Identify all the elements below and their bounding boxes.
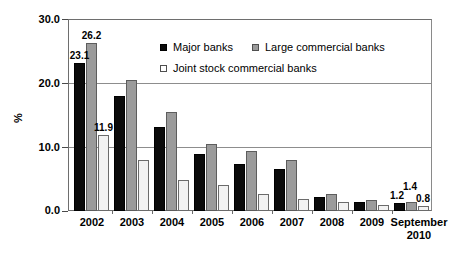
bar-group-2002: 23.1 26.2 11.9: [74, 19, 112, 211]
x-tick-label-2005: 2005: [192, 216, 232, 229]
chart-screenshot: 30.0 20.0 10.0 0.0 % 23.1 26.2 11.9: [0, 0, 460, 280]
bar-label-september-2010-large-commercial-banks: 1.4: [398, 181, 422, 192]
bar-2009-major-banks[interactable]: [354, 202, 365, 211]
x-tick-label-2006: 2006: [232, 216, 272, 229]
bar-2003-large-commercial-banks[interactable]: [126, 80, 137, 211]
bar-september-2010-major-banks[interactable]: [394, 203, 405, 211]
bar-label-september-2010-joint-stock-commercial-banks: 0.8: [411, 193, 435, 204]
bar-2003-major-banks[interactable]: [114, 96, 125, 211]
bar-group-2003: [114, 19, 152, 211]
bar-2002-joint-stock-commercial-banks[interactable]: [98, 135, 109, 211]
filled-black-square-icon: [160, 44, 167, 51]
legend-item-major-banks[interactable]: Major banks: [160, 41, 233, 53]
bar-2007-large-commercial-banks[interactable]: [286, 160, 297, 211]
x-tick-label-2003: 2003: [112, 216, 152, 229]
bar-2005-major-banks[interactable]: [194, 154, 205, 211]
y-axis: 30.0 20.0 10.0 0.0 %: [0, 0, 66, 280]
bar-2004-large-commercial-banks[interactable]: [166, 112, 177, 211]
legend-label-joint-stock-commercial-banks: Joint stock commercial banks: [173, 62, 317, 74]
filled-gray-square-icon: [252, 44, 259, 51]
bar-2008-joint-stock-commercial-banks[interactable]: [338, 202, 349, 211]
legend-label-large-commercial-banks: Large commercial banks: [265, 41, 385, 53]
outline-white-square-icon: [160, 65, 167, 72]
x-tick-mark-2008: [352, 210, 353, 214]
y-tick-label-10: 10.0: [39, 141, 60, 153]
legend-item-large-commercial-banks[interactable]: Large commercial banks: [252, 41, 385, 53]
legend-item-joint-stock-commercial-banks[interactable]: Joint stock commercial banks: [160, 62, 317, 74]
bar-label-2002-major-banks: 23.1: [66, 50, 93, 61]
x-tick-mark-2009: [392, 210, 393, 214]
bar-2006-major-banks[interactable]: [234, 164, 245, 211]
legend-label-major-banks: Major banks: [173, 41, 233, 53]
bar-2007-joint-stock-commercial-banks[interactable]: [298, 199, 309, 211]
y-tick-label-30: 30.0: [39, 13, 60, 25]
bar-2004-major-banks[interactable]: [154, 127, 165, 211]
bar-2005-large-commercial-banks[interactable]: [206, 144, 217, 211]
y-axis-title: %: [12, 98, 24, 138]
x-tick-mark-2005: [232, 210, 233, 214]
x-tick-mark-2004: [192, 210, 193, 214]
bar-2008-large-commercial-banks[interactable]: [326, 194, 337, 211]
x-axis: 2002 2003 2004 2005 2006 2007 2008 2009 …: [68, 213, 432, 271]
x-tick-mark-2007: [312, 210, 313, 214]
x-tick-label-2008: 2008: [312, 216, 352, 229]
bar-2004-joint-stock-commercial-banks[interactable]: [178, 180, 189, 211]
bar-2009-joint-stock-commercial-banks[interactable]: [378, 205, 389, 211]
bar-2006-joint-stock-commercial-banks[interactable]: [258, 194, 269, 211]
bar-2002-major-banks[interactable]: [74, 63, 85, 211]
bar-2008-major-banks[interactable]: [314, 197, 325, 211]
x-tick-label-2007: 2007: [272, 216, 312, 229]
bar-label-2002-large-commercial-banks: 26.2: [78, 30, 105, 41]
x-tick-label-2002: 2002: [72, 216, 112, 229]
bar-2003-joint-stock-commercial-banks[interactable]: [138, 160, 149, 211]
bar-label-2002-joint-stock-commercial-banks: 11.9: [90, 122, 117, 133]
bar-2006-large-commercial-banks[interactable]: [246, 151, 257, 211]
bar-2009-large-commercial-banks[interactable]: [366, 200, 377, 211]
chart-legend: Major banks Large commercial banks Joint…: [160, 41, 410, 81]
y-tick-label-20: 20.0: [39, 77, 60, 89]
bar-september-2010-joint-stock-commercial-banks[interactable]: [418, 206, 429, 211]
x-tick-mark-2002: [112, 210, 113, 214]
x-tick-mark-2006: [272, 210, 273, 214]
x-tick-label-2004: 2004: [152, 216, 192, 229]
bar-2005-joint-stock-commercial-banks[interactable]: [218, 185, 229, 211]
y-tick-mark-0: [62, 211, 68, 212]
x-tick-label-september-2010: September 2010: [386, 216, 452, 242]
y-tick-label-0: 0.0: [45, 204, 60, 216]
bar-2007-major-banks[interactable]: [274, 169, 285, 211]
x-tick-mark-2003: [152, 210, 153, 214]
